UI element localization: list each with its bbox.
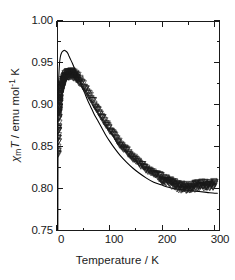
y-tick-major [214, 62, 220, 63]
y-tick-minor [57, 125, 61, 126]
x-tick-major [109, 225, 110, 231]
x-tick-major [56, 225, 57, 231]
y-tick-minor [57, 209, 61, 210]
x-tick-label: 300 [200, 234, 235, 246]
x-tick-major [214, 21, 215, 27]
y-tick-major [57, 20, 63, 21]
x-tick-minor [83, 228, 84, 232]
x-tick-minor [83, 21, 84, 25]
x-tick-label: 100 [94, 234, 134, 246]
y-tick-minor [217, 83, 221, 84]
y-tick-minor [217, 167, 221, 168]
x-tick-major [162, 225, 163, 231]
x-tick-major [162, 21, 163, 27]
y-tick-minor [57, 83, 61, 84]
y-tick-major [57, 188, 63, 189]
y-tick-major [214, 188, 220, 189]
y-tick-major [57, 104, 63, 105]
x-tick-minor [135, 21, 136, 25]
y-tick-major [214, 104, 220, 105]
y-tick-minor [217, 209, 221, 210]
x-tick-major [56, 21, 57, 27]
x-axis-title: Temperature / K [0, 254, 235, 266]
y-axis-title-chi: χ [9, 156, 21, 162]
x-tick-label: 200 [147, 234, 187, 246]
y-tick-major [214, 146, 220, 147]
y-tick-minor [217, 125, 221, 126]
y-tick-minor [57, 41, 61, 42]
y-axis-title-T: T [9, 141, 21, 148]
y-axis-title-kelvin: K [9, 68, 21, 79]
series-experimental-data [57, 68, 218, 194]
x-tick-minor [135, 228, 136, 232]
y-tick-minor [217, 41, 221, 42]
y-tick-major [57, 62, 63, 63]
plot-canvas [57, 21, 220, 231]
figure-chi-t-vs-temperature: 1.00 0.95 0.90 0.85 0.80 0.75 0 100 200 … [0, 0, 235, 280]
y-axis-title-subscript: m [13, 149, 23, 156]
y-tick-minor [57, 167, 61, 168]
y-axis-title-units: / emu mol [9, 87, 21, 142]
x-tick-label: 0 [41, 234, 81, 246]
x-tick-major [214, 225, 215, 231]
y-tick-major [57, 230, 63, 231]
y-axis-title: χmT / emu mol-1 K [7, 5, 27, 225]
y-tick-major [57, 146, 63, 147]
x-tick-minor [188, 228, 189, 232]
y-axis-title-exponent: -1 [7, 79, 17, 87]
plot-data-area [57, 21, 220, 231]
x-tick-major [109, 21, 110, 27]
x-tick-minor [188, 21, 189, 25]
